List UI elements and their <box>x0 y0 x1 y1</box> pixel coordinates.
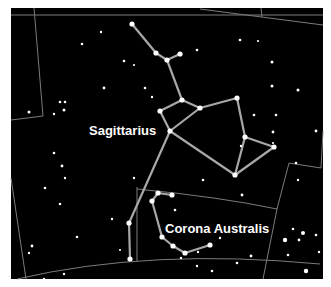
star-icon <box>197 105 202 110</box>
star-icon <box>207 242 212 247</box>
star-icon <box>126 220 131 225</box>
label-corona-australis: Corona Australis <box>165 221 269 236</box>
star-icon <box>157 108 162 113</box>
star-icon <box>234 95 239 100</box>
star-icon <box>153 50 158 55</box>
star-icon <box>167 128 172 133</box>
star-icon <box>271 144 276 149</box>
star-icon <box>129 21 134 26</box>
star-icon <box>179 97 184 102</box>
star-icon <box>177 51 182 56</box>
star-icon <box>169 192 174 197</box>
star-icon <box>159 234 164 239</box>
star-icon <box>155 190 160 195</box>
star-icon <box>242 134 247 139</box>
star-map: Sagittarius Corona Australis <box>0 0 331 287</box>
star-icon <box>182 250 187 255</box>
star-icon <box>149 198 154 203</box>
sky-background <box>11 8 323 279</box>
star-icon <box>170 243 175 248</box>
star-icon <box>127 256 132 261</box>
star-icon <box>164 57 169 62</box>
label-sagittarius: Sagittarius <box>89 123 156 138</box>
star-icon <box>232 172 237 177</box>
constellation-line <box>129 223 130 259</box>
